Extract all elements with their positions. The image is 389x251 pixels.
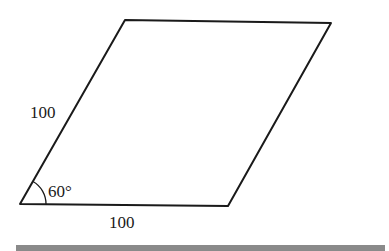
angle-arc (33, 182, 46, 205)
angle-label: 60° (48, 182, 72, 201)
rhombus-diagram: 100 60° 100 (0, 0, 389, 251)
left-side-label: 100 (30, 103, 56, 122)
rhombus-shape (20, 20, 331, 206)
footer-bar (16, 245, 385, 251)
bottom-side-label: 100 (109, 213, 135, 232)
